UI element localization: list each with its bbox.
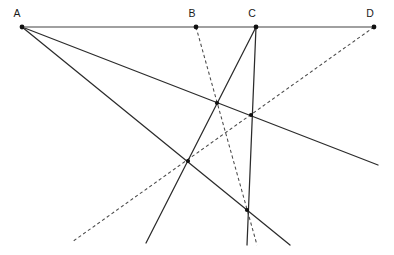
node-middle	[186, 159, 190, 163]
vertex-dot-b	[194, 25, 199, 30]
node-upper-left	[215, 101, 219, 105]
solid-lines-group	[22, 27, 378, 245]
vertex-label-c: C	[248, 7, 256, 19]
ray-C-downleft	[146, 27, 256, 243]
vertex-label-b: B	[188, 7, 195, 19]
ray-C-vertical	[247, 27, 256, 245]
vertex-label-a: A	[13, 7, 20, 19]
ray-D-dashed	[72, 27, 374, 242]
ray-A-steep	[22, 27, 290, 245]
geometry-diagram: ABCD	[0, 0, 394, 255]
node-lower	[245, 208, 249, 212]
node-upper-right	[249, 113, 253, 117]
dashed-lines-group	[72, 27, 374, 245]
vertex-dot-d	[372, 25, 377, 30]
ray-A-shallow	[22, 27, 378, 165]
vertex-label-d: D	[366, 7, 374, 19]
vertex-dot-c	[254, 25, 259, 30]
vertex-dot-a	[20, 25, 25, 30]
labeled-vertices-group: ABCD	[13, 7, 376, 29]
geometry-canvas: ABCD	[0, 0, 394, 255]
